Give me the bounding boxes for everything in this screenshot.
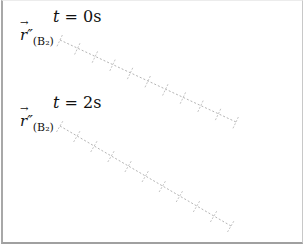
tick-mark	[125, 160, 132, 172]
dashed-tick-line-2s	[57, 120, 235, 232]
tick-lines	[0, 0, 306, 249]
tick-mark	[215, 108, 221, 121]
tick-mark	[110, 58, 116, 71]
tick-mark	[159, 180, 166, 192]
tick-mark	[198, 99, 204, 112]
tick-mark	[142, 170, 149, 182]
tick-mark	[210, 210, 217, 222]
tick-mark	[92, 50, 98, 63]
dashed-tick-line-0s	[57, 34, 239, 129]
tick-mark	[180, 91, 186, 104]
